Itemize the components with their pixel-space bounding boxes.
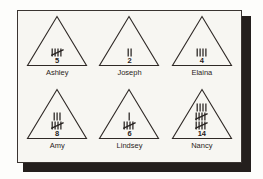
tally-single-marks-icon — [128, 112, 131, 121]
tally-group-of-five-icon — [123, 121, 136, 130]
triangle-shape: 14 — [171, 88, 233, 140]
person-name-label: Ashley — [46, 68, 69, 77]
tally-group-of-five-icon — [51, 121, 64, 130]
tally-count-value: 5 — [55, 57, 59, 65]
tally-cell: 4Elaina — [166, 15, 238, 88]
triangle-contents: 2 — [98, 48, 160, 65]
triangle-contents: 8 — [26, 112, 88, 138]
triangle-shape: 6 — [98, 88, 160, 140]
person-name-label: Nancy — [191, 141, 212, 150]
tally-count-value: 8 — [55, 130, 59, 138]
tally-cell: 2Joseph — [93, 15, 165, 88]
tally-row — [196, 48, 208, 57]
tally-group-of-five-icon — [195, 121, 208, 130]
tally-single-marks-icon — [196, 48, 208, 57]
triangle-shape: 4 — [171, 15, 233, 67]
tally-row — [128, 112, 131, 121]
triangle-contents: 4 — [171, 48, 233, 65]
tally-single-marks-icon — [196, 103, 208, 112]
person-name-label: Elaina — [191, 68, 212, 77]
person-name-label: Lindsey — [117, 141, 143, 150]
worksheet-frame: 5Ashley2Joseph4Elaina8Amy6Lindsey14Nancy — [17, 10, 242, 163]
triangle-contents: 5 — [26, 48, 88, 65]
tally-row — [195, 121, 208, 130]
tally-row — [123, 121, 136, 130]
tally-count-value: 2 — [127, 57, 131, 65]
tally-row — [51, 121, 64, 130]
tally-row — [127, 48, 133, 57]
tally-row — [196, 103, 208, 112]
tally-group-of-five-icon — [195, 112, 208, 121]
worksheet-scene: 5Ashley2Joseph4Elaina8Amy6Lindsey14Nancy — [0, 0, 263, 179]
tally-cell: 5Ashley — [21, 15, 93, 88]
person-name-label: Joseph — [117, 68, 141, 77]
tally-cell: 8Amy — [21, 88, 93, 161]
triangle-shape: 8 — [26, 88, 88, 140]
triangle-grid: 5Ashley2Joseph4Elaina8Amy6Lindsey14Nancy — [18, 11, 241, 162]
tally-row — [195, 112, 208, 121]
tally-count-value: 4 — [200, 57, 204, 65]
tally-row — [51, 48, 64, 57]
triangle-contents: 6 — [98, 112, 160, 138]
tally-row — [53, 112, 62, 121]
tally-single-marks-icon — [127, 48, 133, 57]
tally-single-marks-icon — [53, 112, 62, 121]
tally-cell: 14Nancy — [166, 88, 238, 161]
triangle-contents: 14 — [171, 103, 233, 138]
tally-group-of-five-icon — [51, 48, 64, 57]
person-name-label: Amy — [50, 141, 65, 150]
triangle-shape: 2 — [98, 15, 160, 67]
tally-count-value: 6 — [127, 130, 131, 138]
tally-cell: 6Lindsey — [93, 88, 165, 161]
tally-count-value: 14 — [198, 130, 206, 138]
triangle-shape: 5 — [26, 15, 88, 67]
